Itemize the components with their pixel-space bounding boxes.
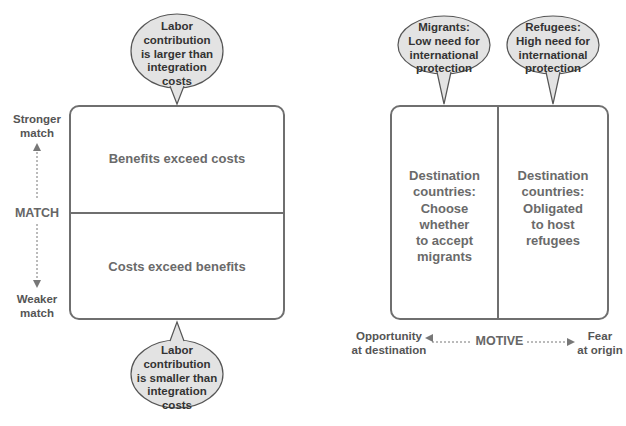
line: to accept — [391, 233, 498, 249]
host-refugees-text: Destination countries: Obligated to host… — [498, 168, 608, 249]
line: Stronger — [7, 112, 67, 126]
line: whether — [391, 217, 498, 233]
line: protection — [507, 62, 599, 76]
line: integration — [131, 385, 223, 399]
benefits-exceed-costs-label: Benefits exceed costs — [70, 151, 284, 167]
line: Choose — [391, 201, 498, 217]
line: Fear — [575, 329, 625, 343]
refugees-bubble-text: Refugees: High need for international pr… — [507, 21, 599, 76]
line: integration — [131, 61, 223, 75]
line: Opportunity — [350, 329, 428, 343]
line: protection — [398, 62, 490, 76]
motive-axis-label: MOTIVE — [472, 334, 527, 349]
line: Migrants: — [398, 21, 490, 35]
line: Labor — [131, 20, 223, 34]
migrants-bubble-text: Migrants: Low need for international pro… — [398, 21, 490, 76]
fear-label: Fear at origin — [575, 329, 625, 357]
line: is smaller than — [131, 372, 223, 386]
line: Destination — [498, 168, 608, 184]
line: at origin — [575, 343, 625, 357]
match-axis-label: MATCH — [7, 206, 67, 221]
line: refugees — [498, 233, 608, 249]
line: Weaker — [7, 292, 67, 306]
line: contribution — [131, 358, 223, 372]
line: at destination — [350, 343, 428, 357]
stronger-match-label: Stronger match — [7, 112, 67, 140]
line: to host — [498, 217, 608, 233]
arrow-up-icon — [33, 143, 41, 151]
top-bubble-text: Labor contribution is larger than integr… — [131, 20, 223, 89]
line: match — [7, 306, 67, 320]
line: High need for — [507, 35, 599, 49]
line: Labor — [131, 344, 223, 358]
weaker-match-label: Weaker match — [7, 292, 67, 320]
line: Destination — [391, 168, 498, 184]
opportunity-label: Opportunity at destination — [350, 329, 428, 357]
line: costs — [131, 75, 223, 89]
line: countries: — [391, 184, 498, 200]
bottom-bubble-text: Labor contribution is smaller than integ… — [131, 344, 223, 413]
line: Refugees: — [507, 21, 599, 35]
line: international — [507, 49, 599, 63]
arrow-down-icon — [33, 280, 41, 288]
choose-migrants-text: Destination countries: Choose whether to… — [391, 168, 498, 266]
line: costs — [131, 399, 223, 413]
line: is larger than — [131, 48, 223, 62]
line: migrants — [391, 249, 498, 265]
line: contribution — [131, 34, 223, 48]
arrow-right-icon — [567, 338, 575, 346]
line: match — [7, 126, 67, 140]
line: Low need for — [398, 35, 490, 49]
line: international — [398, 49, 490, 63]
line: countries: — [498, 184, 608, 200]
costs-exceed-benefits-label: Costs exceed benefits — [70, 259, 284, 275]
line: Obligated — [498, 201, 608, 217]
